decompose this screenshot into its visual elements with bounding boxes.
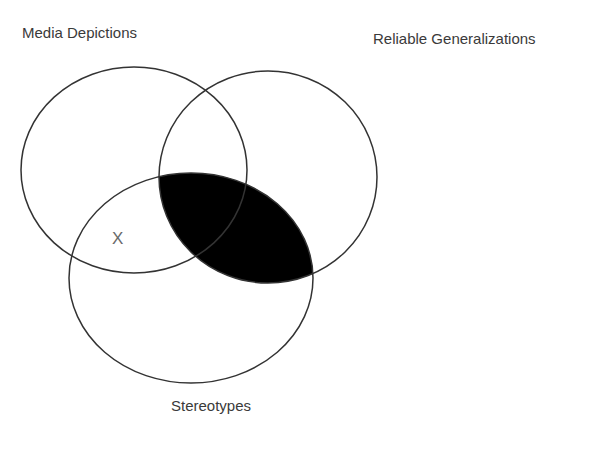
label-media-depictions: Media Depictions	[22, 24, 137, 41]
venn-diagram	[0, 0, 615, 449]
x-mark: X	[112, 229, 123, 249]
label-reliable-generalizations: Reliable Generalizations	[373, 30, 536, 47]
shaded-intersection-b-c	[69, 173, 313, 383]
label-stereotypes: Stereotypes	[171, 397, 251, 414]
